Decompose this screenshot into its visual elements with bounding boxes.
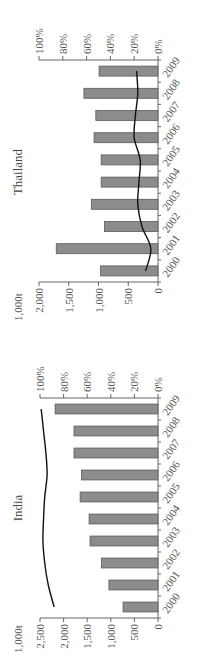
right-tick-label: 80% <box>58 372 70 392</box>
right-tick-label: 0% <box>152 39 164 54</box>
right-tick-label: 40% <box>104 34 116 54</box>
right-tick-label: 60% <box>81 34 93 54</box>
category-label: 2007 <box>160 99 183 124</box>
bar-2003 <box>90 536 158 546</box>
unit-label: 1,000t <box>12 625 24 653</box>
left-tick-label: 0 <box>152 624 164 630</box>
right-tick-label: 20% <box>128 34 140 54</box>
category-label: 2003 <box>160 187 183 212</box>
category-label: 2003 <box>160 524 183 549</box>
category-label: 2009 <box>160 392 183 417</box>
bar-2005 <box>80 492 158 502</box>
bar-2002 <box>101 558 158 568</box>
left-tick-label: 1,000 <box>93 288 105 313</box>
chart-thailand: Thailand 1,000t 05001,0001,5002,0000%20%… <box>10 28 182 321</box>
category-label: 2008 <box>160 76 183 101</box>
left-tick-label: 1,500 <box>63 288 75 313</box>
bar-2000 <box>101 266 158 276</box>
category-label: 2006 <box>160 458 183 483</box>
bar-2007 <box>74 448 158 458</box>
category-label: 2004 <box>160 502 183 527</box>
bar-2000 <box>123 602 158 612</box>
chart-title: India <box>10 494 25 521</box>
left-tick-label: 2,000 <box>33 288 45 313</box>
category-label: 2002 <box>160 210 182 235</box>
chart-india: India 1,000t 05001,0001,5002,0002,5000%2… <box>10 366 182 653</box>
category-label: 2005 <box>160 480 183 505</box>
share-line <box>134 71 151 271</box>
right-tick-label: 60% <box>81 372 93 392</box>
bar-2004 <box>89 514 158 524</box>
category-label: 2001 <box>160 232 182 257</box>
left-tick-label: 1,000 <box>105 624 117 649</box>
category-label: 2009 <box>160 54 183 79</box>
left-tick-label: 2,000 <box>58 624 70 649</box>
bar-2008 <box>74 426 158 436</box>
category-label: 2000 <box>160 590 183 615</box>
category-label: 2000 <box>160 254 183 279</box>
figure: India 1,000t 05001,0001,5002,0002,5000%2… <box>0 0 203 669</box>
bar-2009 <box>99 66 158 76</box>
bar-2005 <box>101 155 158 165</box>
category-label: 2001 <box>160 568 182 593</box>
left-tick-label: 0 <box>152 288 164 294</box>
charts-svg: India 1,000t 05001,0001,5002,0002,5000%2… <box>0 0 203 669</box>
category-label: 2006 <box>160 121 183 146</box>
bar-2006 <box>82 470 158 480</box>
share-line <box>41 409 54 607</box>
right-tick-label: 100% <box>33 28 45 54</box>
right-tick-label: 20% <box>128 372 140 392</box>
bar-2009 <box>55 404 158 414</box>
chart-title: Thailand <box>10 148 25 195</box>
bar-2001 <box>109 580 158 590</box>
left-tick-label: 500 <box>122 288 134 305</box>
category-label: 2005 <box>160 143 183 168</box>
bar-2007 <box>96 111 158 121</box>
bar-2002 <box>104 222 158 232</box>
category-label: 2007 <box>160 436 183 461</box>
right-tick-label: 100% <box>34 366 46 392</box>
left-tick-label: 500 <box>128 624 140 641</box>
left-tick-label: 2,500 <box>34 624 46 649</box>
bar-2001 <box>56 244 158 254</box>
left-tick-label: 1,500 <box>81 624 93 649</box>
right-tick-label: 80% <box>57 34 69 54</box>
bar-2006 <box>94 133 158 143</box>
bar-2008 <box>84 88 158 98</box>
right-tick-label: 0% <box>152 377 164 392</box>
bar-2004 <box>101 177 158 187</box>
unit-label: 1,000t <box>12 293 24 321</box>
bar-2003 <box>91 199 158 209</box>
category-label: 2002 <box>160 546 182 571</box>
category-label: 2004 <box>160 165 183 190</box>
right-tick-label: 40% <box>105 372 117 392</box>
category-label: 2008 <box>160 414 183 439</box>
